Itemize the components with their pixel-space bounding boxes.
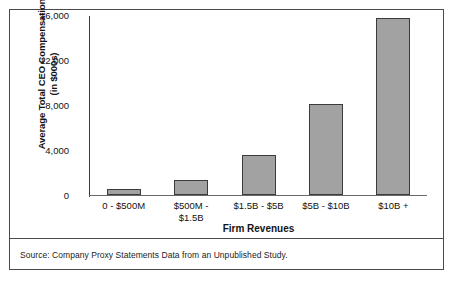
bar-500m-1-5b[interactable] xyxy=(174,180,208,195)
y-tick-label-4000: 4,000 xyxy=(9,146,69,156)
bar-slot xyxy=(360,15,427,195)
source-divider xyxy=(10,238,443,239)
x-tick-label-500m-1-5b: $500M - $1.5B xyxy=(157,200,224,223)
x-tick-label-5b-10b: $5B - $10B xyxy=(292,200,359,223)
y-axis-title-line1: Average Total CEO Compensation xyxy=(36,0,47,149)
y-axis-title: Average Total CEO Compensation (in $000s… xyxy=(36,0,60,164)
bar-slot xyxy=(225,15,292,195)
bar-slot xyxy=(157,15,224,195)
x-tick-line1: $1.5B - $5B xyxy=(233,200,283,211)
bar-slot xyxy=(292,15,359,195)
bar-5b-10b[interactable] xyxy=(309,104,343,195)
y-tick-label-0: 0 xyxy=(9,191,69,201)
chart-plot-area: Average Total CEO Compensation (in $000s… xyxy=(10,10,443,238)
x-tick-label-10b-plus: $10B + xyxy=(360,200,427,223)
x-tick-label-0-500m: 0 - $500M xyxy=(90,200,157,223)
y-tick-label-8000: 8,000 xyxy=(9,101,69,111)
y-tick-label-12000: 12,000 xyxy=(9,56,69,66)
bar-1-5b-5b[interactable] xyxy=(242,155,276,196)
x-axis-title: Firm Revenues xyxy=(90,223,427,234)
x-axis-line xyxy=(89,195,427,196)
source-note: Source: Company Proxy Statements Data fr… xyxy=(20,250,288,260)
y-axis-title-line2: (in $000s) xyxy=(48,0,60,164)
x-tick-label-1-5b-5b: $1.5B - $5B xyxy=(225,200,292,223)
x-tick-line1: 0 - $500M xyxy=(102,200,145,211)
x-tick-line1: $500M - xyxy=(174,200,209,211)
x-tick-line2: $1.5B xyxy=(157,212,224,224)
bar-slot xyxy=(90,15,157,195)
chart-figure: Average Total CEO Compensation (in $000s… xyxy=(9,9,444,270)
x-tick-labels: 0 - $500M $500M - $1.5B $1.5B - $5B $5B … xyxy=(90,200,427,223)
x-tick-line1: $10B + xyxy=(378,200,408,211)
bar-series xyxy=(90,15,427,195)
x-tick-line1: $5B - $10B xyxy=(302,200,350,211)
plot-box xyxy=(89,16,427,196)
bar-0-500m[interactable] xyxy=(107,189,141,195)
y-tick-label-16000: 16,000 xyxy=(9,11,69,21)
bar-10b-plus[interactable] xyxy=(376,18,410,195)
